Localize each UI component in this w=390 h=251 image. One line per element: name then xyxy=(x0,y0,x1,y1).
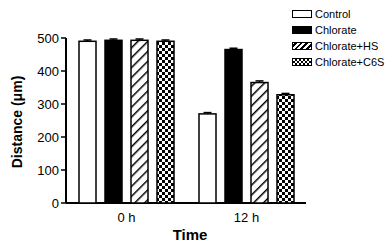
bar-chlorate xyxy=(225,50,242,203)
control-swatch-icon xyxy=(292,10,312,18)
checker-swatch-icon xyxy=(292,58,312,66)
legend-label: Control xyxy=(315,6,350,22)
legend-label: Chlorate xyxy=(315,22,357,38)
bar-chlorate-c6s xyxy=(277,95,294,203)
bar-control xyxy=(199,114,216,203)
bars xyxy=(79,39,294,203)
legend-label: Chlorate+HS xyxy=(315,38,378,54)
x-tick-label: 12 h xyxy=(234,210,259,225)
y-tick-label: 100 xyxy=(37,163,59,178)
y-tick-label: 500 xyxy=(37,31,59,46)
y-tick-label: 400 xyxy=(37,64,59,79)
bar-chlorate-hs xyxy=(251,83,268,203)
chlorate-swatch-icon xyxy=(292,26,312,34)
bar-control xyxy=(79,41,96,203)
legend-label: Chlorate+C6S xyxy=(315,54,384,70)
legend: Control Chlorate Chlorate+HS Chlorate+C6… xyxy=(292,6,384,70)
y-axis-label: Distance (μm) xyxy=(9,76,25,169)
legend-item-chlorate: Chlorate xyxy=(292,22,384,38)
bar-chlorate-hs xyxy=(131,40,148,203)
bar-chlorate xyxy=(105,40,122,203)
legend-item-chlorate-hs: Chlorate+HS xyxy=(292,38,384,54)
hatch-swatch-icon xyxy=(292,42,312,50)
legend-item-control: Control xyxy=(292,6,384,22)
legend-item-chlorate-c6s: Chlorate+C6S xyxy=(292,54,384,70)
x-axis-label: Time xyxy=(173,226,208,243)
y-tick-label: 300 xyxy=(37,97,59,112)
y-tick-label: 200 xyxy=(37,130,59,145)
bar-chlorate-c6s xyxy=(157,41,174,203)
y-tick-label: 0 xyxy=(52,196,59,211)
x-tick-label: 0 h xyxy=(117,210,135,225)
